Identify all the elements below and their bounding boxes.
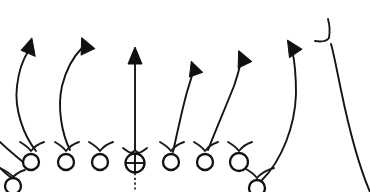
player-shoulders-8 — [246, 168, 274, 178]
route-path-left-edge — [0, 142, 23, 162]
route-path-6 — [262, 50, 296, 180]
player-circle-3[interactable] — [92, 154, 108, 170]
player-marker-4-center[interactable] — [123, 148, 147, 192]
football-play-diagram — [0, 0, 370, 192]
route-path-4 — [173, 72, 193, 152]
player-marker-9[interactable] — [315, 19, 330, 42]
player-circle-6[interactable] — [197, 154, 213, 170]
player-circle-1[interactable] — [23, 154, 39, 170]
route-path-2 — [60, 48, 82, 150]
player-circle-8[interactable] — [249, 180, 265, 192]
arrowhead-5 — [232, 48, 252, 68]
player-marker-6[interactable] — [194, 142, 218, 170]
player-marker-2[interactable] — [55, 142, 79, 170]
player-marker-3[interactable] — [89, 142, 113, 170]
player-shoulders-7 — [228, 142, 252, 151]
player-circle-5[interactable] — [163, 154, 179, 170]
arrowhead-3-center — [128, 47, 142, 64]
player-circle-2[interactable] — [58, 154, 74, 170]
player-shoulders-5 — [160, 142, 184, 151]
player-layer — [0, 19, 330, 192]
route-path-7 — [331, 44, 370, 192]
route-path-1 — [16, 50, 36, 151]
player-circle-7[interactable] — [230, 153, 248, 171]
player-marker-5[interactable] — [160, 142, 184, 170]
route-path-5 — [208, 61, 241, 150]
arrowhead-1 — [21, 37, 39, 57]
route-layer — [0, 44, 370, 192]
play-diagram-canvas — [0, 0, 370, 192]
player-marker-7[interactable] — [228, 142, 252, 171]
player-circle-0[interactable] — [5, 178, 21, 192]
arrowhead-4 — [185, 59, 203, 77]
player-shoulders-3 — [89, 142, 113, 151]
player-shoulders-9 — [315, 19, 330, 42]
arrowhead-layer — [21, 35, 303, 77]
arrowhead-6 — [281, 36, 302, 57]
player-shoulders-6 — [194, 142, 218, 151]
